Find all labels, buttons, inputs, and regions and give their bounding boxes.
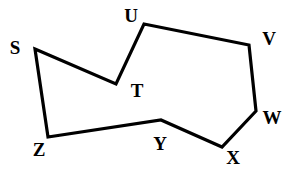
- polygon-outline: [35, 24, 256, 147]
- vertex-label-w: W: [263, 108, 282, 127]
- vertex-label-u: U: [124, 6, 138, 25]
- vertex-label-v: V: [262, 29, 276, 48]
- vertex-label-y: Y: [153, 134, 167, 153]
- vertex-label-x: X: [226, 148, 240, 167]
- vertex-label-t: T: [131, 81, 144, 100]
- polygon-diagram: STUVWXYZ: [0, 0, 296, 171]
- vertex-label-s: S: [10, 38, 21, 57]
- vertex-label-z: Z: [33, 140, 46, 159]
